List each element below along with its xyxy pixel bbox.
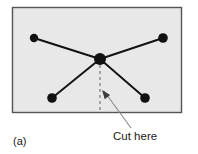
top-right-node xyxy=(158,33,168,43)
bottom-left-node xyxy=(47,93,57,103)
network-diagram xyxy=(0,0,198,154)
center-node xyxy=(94,53,106,65)
top-left-node xyxy=(30,34,38,42)
panel-caption-label: (a) xyxy=(13,136,26,147)
cut-here-annotation-label: Cut here xyxy=(113,131,157,143)
figure-panel-a: Cut here (a) xyxy=(0,0,198,154)
bottom-right-node xyxy=(140,93,150,103)
